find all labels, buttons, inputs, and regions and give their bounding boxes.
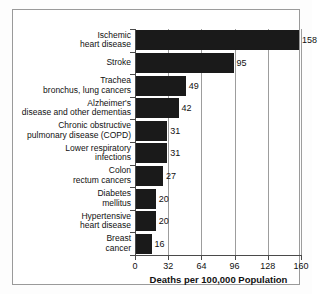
category-label: Hypertensiveheart disease xyxy=(80,212,131,231)
bar[interactable] xyxy=(135,121,167,141)
chart-frame: 158954942313127202016 Ischemicheart dise… xyxy=(12,9,300,285)
x-axis-title: Deaths per 100,000 Population xyxy=(135,274,302,285)
x-tick xyxy=(268,256,269,260)
bar-value-label: 31 xyxy=(170,148,180,158)
x-tick-label: 160 xyxy=(293,261,308,271)
y-tick xyxy=(130,187,135,188)
bar[interactable] xyxy=(135,143,167,163)
y-axis-line xyxy=(135,29,136,256)
bar[interactable] xyxy=(135,53,234,73)
gridline-x-128 xyxy=(268,29,269,255)
bar-value-label: 20 xyxy=(159,194,169,204)
y-axis-category-labels: Ischemicheart diseaseStrokeTracheabronch… xyxy=(26,29,131,255)
x-tick-label: 64 xyxy=(196,261,206,271)
bar-value-label: 27 xyxy=(166,171,176,181)
x-tick xyxy=(201,256,202,260)
x-tick-label: 96 xyxy=(230,261,240,271)
bar-value-label: 158 xyxy=(302,35,312,45)
y-tick xyxy=(130,119,135,120)
bar-value-label: 42 xyxy=(182,103,192,113)
bar[interactable] xyxy=(135,76,186,96)
category-label: Alzheimer'sdisease and other dementias xyxy=(22,99,131,118)
category-label: Colonrectum cancers xyxy=(73,166,131,185)
plot-area: 158954942313127202016 xyxy=(135,29,301,255)
y-tick xyxy=(130,74,135,75)
category-label-line: heart disease xyxy=(80,40,131,50)
category-label-line: disease and other dementias xyxy=(22,108,131,118)
category-label-line: bronchus, lung cancers xyxy=(43,86,131,96)
bar[interactable] xyxy=(135,30,299,50)
category-label-line: cancer xyxy=(105,244,131,254)
x-tick xyxy=(235,256,236,260)
category-label-line: mellitus xyxy=(97,199,131,209)
y-tick xyxy=(130,165,135,166)
bar-value-label: 49 xyxy=(189,81,199,91)
category-label: Tracheabronchus, lung cancers xyxy=(43,76,131,95)
bar[interactable] xyxy=(135,234,152,254)
category-label-line: infections xyxy=(65,153,131,163)
bar[interactable] xyxy=(135,189,156,209)
x-tick-label: 0 xyxy=(132,261,137,271)
bar-value-label: 16 xyxy=(155,239,165,249)
bar[interactable] xyxy=(135,211,156,231)
x-tick xyxy=(135,256,136,260)
category-label-line: Stroke xyxy=(106,58,131,68)
y-tick xyxy=(130,232,135,233)
bar-value-label: 20 xyxy=(159,216,169,226)
bar[interactable] xyxy=(135,98,179,118)
category-label: Lower respiratoryinfections xyxy=(65,144,131,163)
x-tick-label: 128 xyxy=(260,261,275,271)
x-axis-line xyxy=(135,255,302,256)
y-tick xyxy=(130,29,135,30)
category-label-line: pulmonary disease (COPD) xyxy=(27,131,131,141)
x-tick xyxy=(168,256,169,260)
y-tick xyxy=(130,52,135,53)
category-label-line: heart disease xyxy=(80,221,131,231)
category-label: Chronic obstructivepulmonary disease (CO… xyxy=(27,121,131,140)
x-tick xyxy=(301,256,302,260)
chart-figure: 158954942313127202016 Ischemicheart dise… xyxy=(0,0,312,294)
bar-value-label: 31 xyxy=(170,126,180,136)
gridline-x-160 xyxy=(301,29,302,255)
category-label: Ischemicheart disease xyxy=(80,31,131,50)
x-tick-label: 32 xyxy=(163,261,173,271)
y-tick xyxy=(130,97,135,98)
bar-value-label: 95 xyxy=(237,58,247,68)
y-tick xyxy=(130,142,135,143)
category-label: Diabetesmellitus xyxy=(97,189,131,208)
category-label-line: rectum cancers xyxy=(73,176,131,186)
y-tick xyxy=(130,210,135,211)
gridline-x-96 xyxy=(235,29,236,255)
category-label: Stroke xyxy=(106,58,131,68)
category-label: Breastcancer xyxy=(105,234,131,253)
bar[interactable] xyxy=(135,166,163,186)
